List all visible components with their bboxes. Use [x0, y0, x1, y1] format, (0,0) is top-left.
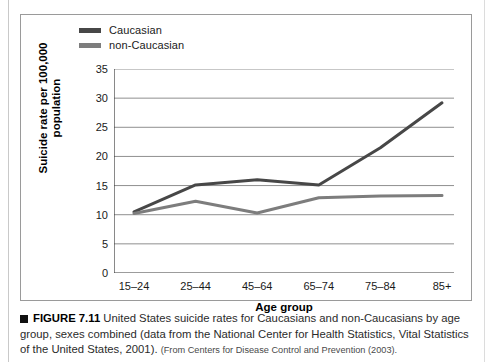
y-tick-label-0: 0	[102, 268, 108, 279]
axis-lines	[114, 69, 454, 273]
data-series	[134, 103, 442, 214]
caption-square-icon	[20, 315, 28, 323]
y-tick-label-5: 5	[102, 238, 108, 249]
x-tick-label-5: 85+	[433, 281, 452, 292]
y-tick-label-20: 20	[96, 151, 108, 162]
chart-svg	[114, 69, 454, 273]
y-tick-label-10: 10	[96, 209, 108, 220]
y-tick-label-25: 25	[96, 122, 108, 133]
legend-label-non-caucasian: non-Caucasian	[109, 40, 184, 51]
x-tick-label-0: 15–24	[119, 281, 150, 292]
x-axis-tick-labels: 15–2425–4445–6465–7475–8485+	[114, 281, 454, 297]
figure-frame: Caucasian non-Caucasian Suicide rate per…	[20, 14, 472, 301]
page-left-rule	[8, 0, 9, 362]
y-tick-label-30: 30	[96, 93, 108, 104]
x-tick-label-2: 45–64	[242, 281, 273, 292]
caption-figure-number: FIGURE 7.11	[33, 312, 100, 324]
legend-label-caucasian: Caucasian	[109, 25, 162, 36]
y-tick-label-35: 35	[96, 64, 108, 75]
caption-source: (From Centers for Disease Control and Pr…	[161, 345, 397, 355]
x-tick-label-3: 65–74	[304, 281, 335, 292]
figure-caption: FIGURE 7.11 United States suicide rates …	[20, 311, 478, 359]
y-tick-label-15: 15	[96, 180, 108, 191]
y-axis-tick-labels: 05101520253035	[56, 69, 108, 273]
x-tick-label-1: 25–44	[180, 281, 211, 292]
gridlines	[114, 69, 454, 244]
series-line-non-caucasian	[134, 195, 442, 213]
page-right-rule	[484, 0, 485, 362]
legend-swatch-caucasian	[79, 28, 101, 33]
legend-item-non-caucasian: non-Caucasian	[79, 38, 184, 53]
plot-area	[114, 69, 454, 273]
legend-swatch-non-caucasian	[79, 43, 101, 48]
chart-legend: Caucasian non-Caucasian	[79, 23, 184, 53]
x-tick-label-4: 75–84	[365, 281, 396, 292]
legend-item-caucasian: Caucasian	[79, 23, 184, 38]
